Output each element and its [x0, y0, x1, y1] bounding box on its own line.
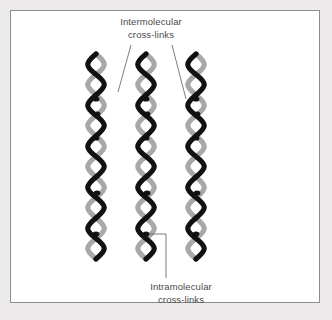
crosslink-dot: [193, 231, 200, 236]
crosslink-dot: [94, 190, 101, 195]
crosslink-dot: [93, 135, 100, 140]
crosslink-dot: [144, 190, 151, 195]
intermolecular-leader-left-line: [118, 45, 131, 92]
crosslink-dot: [144, 111, 151, 116]
crosslink-dot: [194, 190, 201, 195]
intramolecular-label-line2: cross-links: [126, 294, 236, 307]
crosslink-dot: [143, 231, 150, 236]
crosslink-dot: [143, 96, 150, 101]
helix-column-1: [88, 54, 105, 259]
crosslink-dot: [143, 135, 150, 140]
crosslink-dot: [93, 96, 100, 101]
figure-container: Intermolecular cross-links Intramolecula…: [0, 0, 332, 320]
intermolecular-leader-right-line: [172, 45, 186, 99]
helix-column-3: [188, 54, 205, 259]
crosslink-dot: [193, 96, 200, 101]
intermolecular-label-line2: cross-links: [96, 29, 206, 42]
intramolecular-label-line1: Intramolecular: [150, 281, 212, 292]
intermolecular-label: Intermolecular cross-links: [96, 16, 206, 41]
helix-column-2: [138, 54, 155, 259]
crosslink-dot: [194, 111, 201, 116]
crosslink-dot: [94, 111, 101, 116]
collagen-diagram: [0, 0, 332, 320]
intramolecular-label: Intramolecular cross-links: [126, 281, 236, 306]
intermolecular-label-line1: Intermolecular: [120, 16, 182, 27]
crosslink-dot: [93, 231, 100, 236]
crosslink-dot: [193, 135, 200, 140]
